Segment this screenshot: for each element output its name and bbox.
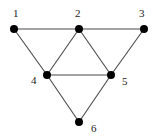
edge-2-4	[47, 29, 79, 75]
edge-1-4	[14, 29, 47, 75]
node-3	[140, 25, 148, 33]
node-label-3: 3	[139, 7, 145, 19]
node-2	[75, 25, 83, 33]
node-label-1: 1	[13, 7, 19, 19]
node-6	[75, 118, 83, 126]
node-5	[107, 71, 115, 79]
edge-5-6	[79, 75, 111, 122]
node-label-2: 2	[75, 7, 81, 19]
node-1	[10, 25, 18, 33]
graph-diagram: 123456	[0, 0, 158, 138]
edge-3-5	[111, 29, 144, 75]
node-label-5: 5	[122, 75, 128, 87]
node-label-6: 6	[91, 122, 97, 134]
edge-2-5	[79, 29, 111, 75]
node-label-4: 4	[31, 74, 37, 86]
edge-4-6	[47, 75, 79, 122]
node-4	[43, 71, 51, 79]
